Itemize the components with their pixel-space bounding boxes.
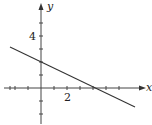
coordinate-plot <box>0 0 152 125</box>
x-axis-arrow-icon <box>139 86 146 91</box>
x-tick-label-2: 2 <box>64 92 71 103</box>
y-axis-label: y <box>47 1 53 12</box>
x-axis-label: x <box>146 82 152 93</box>
y-axis-arrow-icon <box>39 3 44 10</box>
data-line <box>10 47 135 107</box>
y-tick-label-4: 4 <box>29 31 36 42</box>
